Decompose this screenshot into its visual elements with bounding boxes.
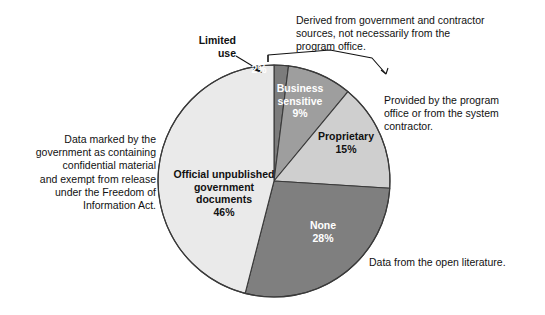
slice-callout-limited-use: Limited use: [176, 34, 236, 59]
annotation-provided-by-program-office: Provided by the program office or from t…: [384, 94, 545, 134]
annotation-data-from-open-literature: Data from the open literature.: [369, 256, 545, 269]
pie-slice-group: [158, 65, 390, 297]
annotation-derived-from-government: Derived from government and contractor s…: [296, 14, 545, 54]
annotation-data-marked-by-government: Data marked by the government as contain…: [4, 133, 156, 212]
pie-chart-figure: Limited use 2% Business sensitive 9% Pro…: [0, 0, 545, 315]
